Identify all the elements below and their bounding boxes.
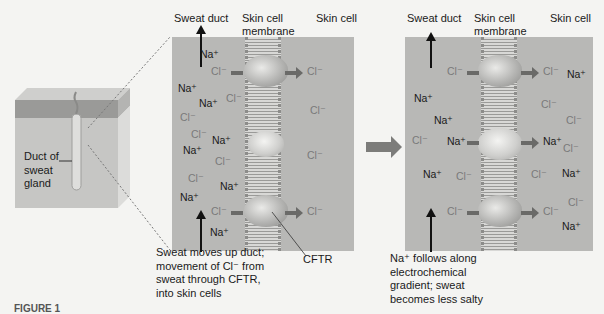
ion-out-label: Na⁺ (543, 135, 562, 147)
chloride-ion-label: Cl⁻ (566, 114, 582, 126)
sodium-ion-label: Na⁺ (200, 48, 219, 60)
chloride-ion-label: Cl⁻ (568, 196, 584, 208)
channel-middle (248, 131, 284, 157)
cftr-channel-top (478, 55, 522, 87)
ion-in-label: Cl⁻ (211, 205, 227, 217)
ion-in-label: Cl⁻ (447, 205, 463, 217)
ion-in-label: Cl⁻ (447, 65, 463, 77)
membrane-line1: Skin cell (242, 12, 295, 25)
chloride-ion-label: Cl⁻ (307, 149, 323, 161)
ion-out-label: Cl⁻ (543, 205, 559, 217)
ion-out-label: Cl⁻ (543, 65, 559, 77)
sodium-ion-label: Na⁺ (178, 82, 197, 94)
flow-out-arrow-icon (285, 71, 297, 75)
chloride-ion-label: Cl⁻ (188, 172, 204, 184)
flow-in-bar (467, 71, 479, 75)
skin-cell-membrane-header: Skin cell membrane (242, 12, 295, 38)
sweat-flow-arrow-bottom (430, 216, 432, 252)
chloride-ion-label: Cl⁻ (310, 104, 326, 116)
cftr-channel-bottom (478, 195, 522, 227)
chloride-ion-label: Cl⁻ (541, 98, 557, 110)
flow-in-bar (467, 211, 479, 215)
chloride-ion-label: Cl⁻ (412, 134, 428, 146)
caption-line: movement of Cl⁻ from (156, 260, 264, 274)
sodium-ion-label: Na⁺ (199, 97, 218, 109)
flow-in-bar (231, 211, 243, 215)
right-caption: Na⁺ follows along electrochemical gradie… (390, 252, 483, 306)
flow-in-bar (467, 141, 479, 145)
skin-cell-header: Skin cell (316, 12, 357, 25)
chloride-ion-label: Cl⁻ (456, 170, 472, 182)
sweat-duct-header: Sweat duct (407, 12, 461, 25)
ion-out-label: Cl⁻ (307, 65, 323, 77)
sweat-duct-header: Sweat duct (174, 12, 228, 25)
caption-line: into skin cells (156, 287, 264, 301)
sodium-ion-label: Na⁺ (414, 92, 433, 104)
sodium-ion-label: Na⁺ (183, 144, 202, 156)
sodium-channel (478, 128, 522, 160)
caption-line: becomes less salty (390, 293, 483, 307)
cftr-pointer-line (270, 210, 310, 260)
left-caption: Sweat moves up duct; movement of Cl⁻ fro… (156, 246, 264, 300)
chloride-ion-label: Cl⁻ (563, 142, 579, 154)
sodium-ion-label: Na⁺ (220, 180, 239, 192)
caption-line: sweat through CFTR, (156, 273, 264, 287)
chloride-ion-label: Cl⁻ (226, 92, 242, 104)
sodium-ion-label: Na⁺ (212, 134, 231, 146)
membrane-line1: Skin cell (474, 12, 527, 25)
flow-out-arrow-icon (521, 71, 533, 75)
sweat-flow-arrow-top (430, 40, 432, 68)
chloride-ion-label: Cl⁻ (531, 168, 547, 180)
chloride-ion-label: Cl⁻ (215, 155, 231, 167)
chloride-ion-label: Cl⁻ (180, 111, 196, 123)
flow-in-bar (231, 71, 243, 75)
caption-line: Na⁺ follows along (390, 252, 483, 266)
sodium-ion-label: Na⁺ (434, 114, 453, 126)
caption-line: Sweat moves up duct; (156, 246, 264, 260)
cftr-channel-top (244, 55, 288, 87)
figure-caption-partial: FIGURE 1 (14, 303, 60, 314)
skin-cell-membrane-header: Skin cell membrane (474, 12, 527, 38)
sodium-ion-label: Na⁺ (562, 167, 581, 179)
caption-line: gradient; sweat (390, 279, 483, 293)
skin-cell-header: Skin cell (550, 12, 591, 25)
sodium-ion-label: Na⁺ (567, 68, 586, 80)
sodium-ion-label: Na⁺ (210, 226, 229, 238)
flow-out-arrow-icon (521, 141, 533, 145)
chloride-ion-label: Cl⁻ (191, 128, 207, 140)
sodium-ion-label: Na⁺ (562, 220, 581, 232)
flow-out-arrow-icon (521, 211, 533, 215)
caption-line: electrochemical (390, 266, 483, 280)
ion-in-label: Cl⁻ (211, 65, 227, 77)
right-arrow-icon (366, 142, 392, 152)
ion-in-label: Na⁺ (447, 135, 466, 147)
sodium-ion-label: Na⁺ (180, 191, 199, 203)
sodium-ion-label: Na⁺ (423, 168, 442, 180)
